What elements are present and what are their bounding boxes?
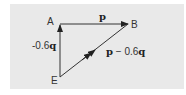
point-label-a: A <box>47 16 54 27</box>
point-label-e: E <box>51 75 58 86</box>
vector-label-minus-0.6q: -0.6q <box>32 40 56 51</box>
midpoint-arrow-icon <box>82 50 95 60</box>
vector-label-p-minus-0.6q: p − 0.6q <box>106 46 145 57</box>
vector-diagram: A B E p -0.6q p − 0.6q <box>0 0 186 95</box>
vector-label-p: p <box>99 11 106 22</box>
point-label-b: B <box>131 19 138 30</box>
